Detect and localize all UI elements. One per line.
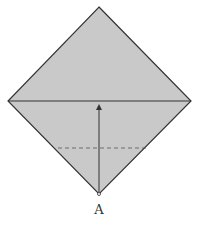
point-a-marker [98,193,101,196]
point-label: A [93,202,104,217]
origami-diagram: A [0,0,198,225]
